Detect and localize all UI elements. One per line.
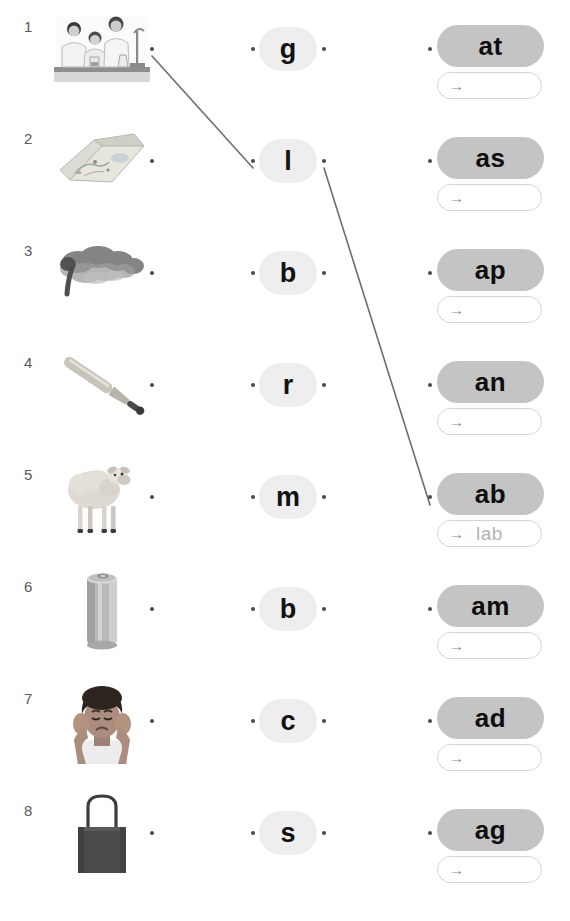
row-number: 7 [24, 690, 33, 707]
arrow-right-icon: → [449, 526, 464, 541]
row-letter-right-connector-dot[interactable] [322, 607, 326, 611]
row-number: 3 [24, 242, 33, 259]
row-letter-left-connector-dot[interactable] [251, 47, 255, 51]
letter-pill[interactable]: l [259, 139, 317, 183]
answer-input-box[interactable]: → [437, 632, 542, 659]
arrow-right-icon: → [449, 862, 464, 877]
arrow-right-icon: → [449, 190, 464, 205]
row-letter-left-connector-dot[interactable] [251, 271, 255, 275]
row-word-connector-dot[interactable] [428, 831, 432, 835]
letter-pill[interactable]: b [259, 251, 317, 295]
word-ending-pill[interactable]: ad [437, 697, 544, 739]
row-letter-right-connector-dot[interactable] [322, 383, 326, 387]
arrow-right-icon: → [449, 78, 464, 93]
smoke-gas-cloud-image [46, 226, 158, 320]
row-letter-left-connector-dot[interactable] [251, 831, 255, 835]
row-picture-connector-dot[interactable] [150, 271, 154, 275]
arrow-right-icon: → [449, 750, 464, 765]
row-picture-connector-dot[interactable] [150, 495, 154, 499]
tote-bag-image [46, 786, 158, 880]
answer-input-box[interactable]: → [437, 856, 542, 883]
row-word-connector-dot[interactable] [428, 271, 432, 275]
answer-input-box[interactable]: → [437, 296, 542, 323]
word-ending-pill[interactable]: ab [437, 473, 544, 515]
answer-text: lab [476, 524, 503, 543]
row-word-connector-dot[interactable] [428, 607, 432, 611]
row-letter-left-connector-dot[interactable] [251, 383, 255, 387]
worksheet-row: 1 [0, 0, 570, 112]
letter-pill[interactable]: g [259, 27, 317, 71]
answer-input-box[interactable]: → [437, 744, 542, 771]
row-picture-connector-dot[interactable] [150, 719, 154, 723]
row-number: 2 [24, 130, 33, 147]
row-number: 6 [24, 578, 33, 595]
letter-pill[interactable]: r [259, 363, 317, 407]
answer-input-box[interactable]: → lab [437, 520, 542, 547]
row-letter-left-connector-dot[interactable] [251, 159, 255, 163]
arrow-right-icon: → [449, 638, 464, 653]
row-number: 1 [24, 18, 33, 35]
arrow-right-icon: → [449, 414, 464, 429]
letter-pill[interactable]: b [259, 587, 317, 631]
phonics-matching-worksheet: 1 [0, 0, 570, 921]
word-ending-pill[interactable]: ap [437, 249, 544, 291]
worksheet-row: 3 [0, 224, 570, 336]
row-word-connector-dot[interactable] [428, 159, 432, 163]
row-word-connector-dot[interactable] [428, 383, 432, 387]
row-letter-left-connector-dot[interactable] [251, 495, 255, 499]
worksheet-row: 5 [0, 448, 570, 560]
worksheet-row: 6 b am → [0, 560, 570, 672]
worksheet-row: 4 r an [0, 336, 570, 448]
row-number: 4 [24, 354, 33, 371]
row-picture-connector-dot[interactable] [150, 831, 154, 835]
row-picture-connector-dot[interactable] [150, 607, 154, 611]
row-picture-connector-dot[interactable] [150, 47, 154, 51]
worksheet-row: 2 l as → [0, 112, 570, 224]
row-letter-left-connector-dot[interactable] [251, 607, 255, 611]
row-picture-connector-dot[interactable] [150, 383, 154, 387]
row-letter-right-connector-dot[interactable] [322, 495, 326, 499]
aluminium-can-image [46, 562, 158, 656]
word-ending-pill[interactable]: am [437, 585, 544, 627]
worksheet-row: 7 [0, 672, 570, 784]
letter-pill[interactable]: m [259, 475, 317, 519]
word-ending-pill[interactable]: as [437, 137, 544, 179]
lamb-sheep-image [46, 450, 158, 544]
arrow-right-icon: → [449, 302, 464, 317]
row-number: 5 [24, 466, 33, 483]
row-letter-right-connector-dot[interactable] [322, 719, 326, 723]
worksheet-row: 8 s ag → [0, 784, 570, 896]
answer-input-box[interactable]: → [437, 184, 542, 211]
row-word-connector-dot[interactable] [428, 495, 432, 499]
letter-pill[interactable]: c [259, 699, 317, 743]
answer-input-box[interactable]: → [437, 408, 542, 435]
row-letter-right-connector-dot[interactable] [322, 271, 326, 275]
row-letter-right-connector-dot[interactable] [322, 47, 326, 51]
sad-child-covering-ears-image [46, 674, 158, 768]
row-picture-connector-dot[interactable] [150, 159, 154, 163]
science-lab-students-image [46, 2, 158, 96]
answer-input-box[interactable]: → [437, 72, 542, 99]
row-letter-right-connector-dot[interactable] [322, 831, 326, 835]
map-image [46, 114, 158, 208]
row-word-connector-dot[interactable] [428, 719, 432, 723]
baseball-bat-image [46, 338, 158, 432]
word-ending-pill[interactable]: ag [437, 809, 544, 851]
row-letter-right-connector-dot[interactable] [322, 159, 326, 163]
row-word-connector-dot[interactable] [428, 47, 432, 51]
word-ending-pill[interactable]: at [437, 25, 544, 67]
word-ending-pill[interactable]: an [437, 361, 544, 403]
letter-pill[interactable]: s [259, 811, 317, 855]
row-letter-left-connector-dot[interactable] [251, 719, 255, 723]
row-number: 8 [24, 802, 33, 819]
